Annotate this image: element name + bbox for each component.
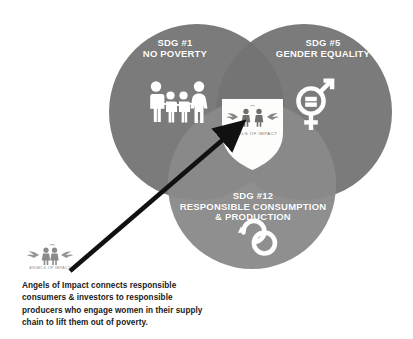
angels-of-impact-logo: ANGELS OF IMPACT — [22, 244, 78, 270]
caption-logo-wordmark: ANGELS OF IMPACT — [29, 266, 71, 270]
caption-text: Angels of Impact connects responsible co… — [22, 280, 207, 330]
caption-block: ANGELS OF IMPACT Angels of Impact connec… — [22, 244, 207, 330]
shield-wordmark: ANGELS OF IMPACT — [228, 131, 278, 136]
diagram-canvas: ANGELS OF IMPACT SDG #1 NO POVERTY SDG #… — [0, 0, 413, 339]
